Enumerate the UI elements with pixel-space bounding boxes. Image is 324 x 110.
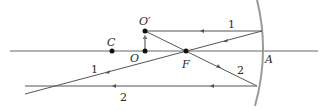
- label-A: A: [264, 53, 273, 66]
- point-O: [143, 49, 148, 54]
- label-C: C: [107, 36, 116, 49]
- ray-1-label-top: 1: [228, 18, 235, 31]
- ray-2-label-top: 2: [237, 64, 244, 77]
- point-O-prime: [143, 29, 148, 34]
- ray-2: [25, 31, 257, 88]
- point-C: [110, 49, 115, 54]
- object-arrowhead: [143, 35, 148, 39]
- point-F: [184, 49, 189, 54]
- label-O-prime: O′: [139, 15, 151, 28]
- ray-1-label-bottom: 1: [91, 63, 98, 76]
- ray-diagram: C O O′ F A 1 1 2 2: [0, 0, 324, 110]
- concave-mirror: [255, 0, 263, 106]
- label-O: O: [130, 52, 139, 65]
- label-F: F: [181, 58, 190, 71]
- ray-2-label-bottom: 2: [120, 91, 127, 104]
